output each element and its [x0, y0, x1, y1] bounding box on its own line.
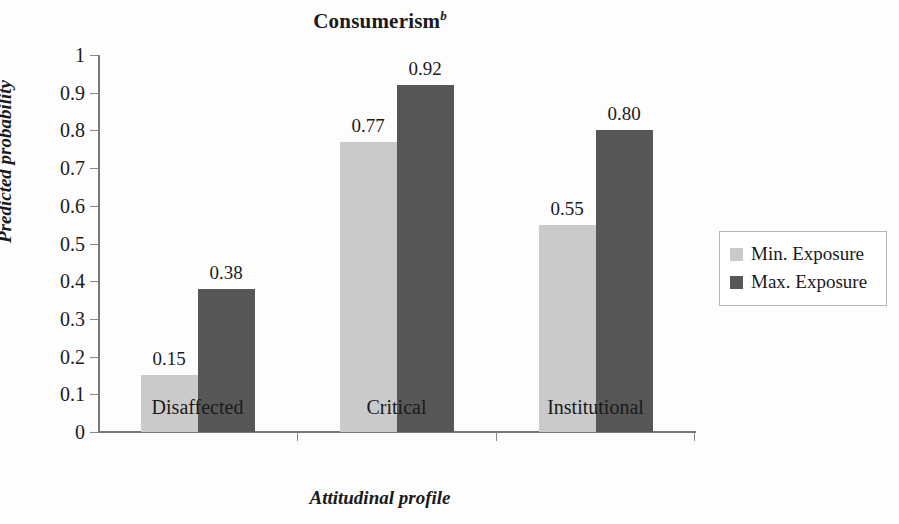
bar-min-exposure: 0.77 [340, 142, 397, 432]
y-tick-mark [90, 206, 98, 207]
y-tick-mark [90, 244, 98, 245]
legend-label: Max. Exposure [751, 271, 867, 293]
y-tick-label: 0.2 [25, 345, 85, 368]
y-tick-label: 1 [25, 44, 85, 67]
legend-item[interactable]: Max. Exposure [730, 268, 876, 296]
bar-value-label: 0.15 [152, 348, 185, 370]
x-tick-mark [297, 432, 298, 441]
x-tick-mark [496, 432, 497, 441]
chart-title-text: Consumerism [313, 9, 440, 33]
legend-label: Min. Exposure [751, 243, 864, 265]
y-tick-label: 0.4 [25, 270, 85, 293]
bar-value-label: 0.55 [550, 198, 583, 220]
bar-value-label: 0.77 [351, 115, 384, 137]
x-tick-mark-end [694, 432, 695, 441]
y-tick-label: 0 [25, 421, 85, 444]
x-axis-label-disaffected: Disaffected [152, 396, 244, 419]
bar-value-label: 0.38 [209, 262, 242, 284]
chart-legend: Min. ExposureMax. Exposure [719, 231, 887, 306]
plot-area: 10.90.80.70.60.50.40.30.20.10 0.150.380.… [98, 55, 695, 432]
y-tick-mark [90, 432, 98, 433]
y-tick-label: 0.5 [25, 232, 85, 255]
bar-max-exposure: 0.80 [596, 130, 653, 432]
y-tick-mark [90, 55, 98, 56]
y-tick-label: 0.8 [25, 119, 85, 142]
chart-figure: Consumerismb Predicted probability 10.90… [0, 0, 899, 524]
y-tick-mark [90, 319, 98, 320]
y-tick-label: 0.7 [25, 157, 85, 180]
x-axis-label-institutional: Institutional [547, 396, 644, 419]
y-tick-mark [90, 281, 98, 282]
y-tick-mark [90, 357, 98, 358]
bar-max-exposure: 0.92 [397, 85, 454, 432]
x-axis-title: Attitudinal profile [0, 487, 760, 509]
legend-item[interactable]: Min. Exposure [730, 240, 876, 268]
chart-title-superscript: b [440, 8, 447, 23]
legend-swatch-icon [730, 248, 743, 261]
y-axis-title: Predicted probability [0, 80, 16, 243]
y-tick-mark [90, 130, 98, 131]
y-tick-mark [90, 93, 98, 94]
chart-title: Consumerismb [0, 8, 760, 34]
y-tick-mark [90, 394, 98, 395]
y-tick-label: 0.3 [25, 307, 85, 330]
y-tick-label: 0.1 [25, 383, 85, 406]
bar-value-label: 0.80 [607, 103, 640, 125]
x-axis-label-critical: Critical [367, 396, 427, 419]
y-tick-label: 0.9 [25, 81, 85, 104]
bar-value-label: 0.92 [408, 58, 441, 80]
y-tick-label: 0.6 [25, 194, 85, 217]
y-tick-mark [90, 168, 98, 169]
legend-swatch-icon [730, 276, 743, 289]
